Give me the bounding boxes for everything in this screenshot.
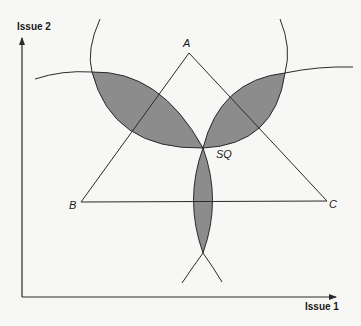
- x-axis-label: Issue 1: [305, 301, 339, 312]
- indifference-curve-c-top: [90, 19, 100, 72]
- indifference-curve-a-bottom-right: [203, 253, 222, 282]
- point-label-a: A: [183, 37, 190, 49]
- point-label-status-quo: SQ: [216, 148, 232, 160]
- y-axis-label: Issue 2: [17, 21, 51, 32]
- point-label-c: C: [329, 198, 337, 210]
- win-set-lens-bottom: [194, 148, 213, 253]
- spatial-voting-diagram: [0, 0, 361, 326]
- win-set-lens-right: [203, 73, 285, 148]
- point-label-b: B: [69, 199, 76, 211]
- indifference-curve-b-left: [35, 72, 92, 79]
- indifference-curve-c-right: [285, 67, 353, 73]
- indifference-curve-b-top: [280, 19, 288, 73]
- indifference-curve-a-bottom-left: [182, 253, 203, 283]
